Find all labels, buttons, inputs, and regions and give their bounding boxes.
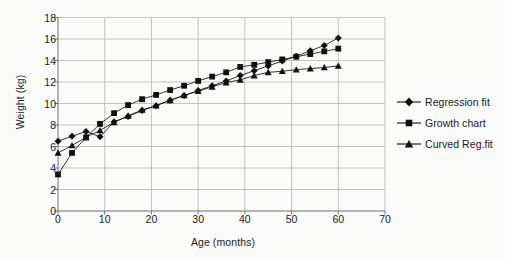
y-tick-label: 6 — [30, 142, 56, 153]
x-axis-tick-labels: 010203040506070 — [0, 214, 505, 234]
y-axis-title: Weight (kg) — [14, 52, 26, 152]
triangle-marker-icon — [396, 137, 422, 151]
legend-item-regression-fit: Regression fit — [396, 91, 504, 112]
y-tick-label: 8 — [30, 120, 56, 131]
x-axis-title: Age (months) — [60, 236, 386, 248]
legend-label-regression-fit: Regression fit — [422, 96, 490, 108]
x-tick-label: 40 — [228, 214, 262, 225]
legend-item-growth-chart: Growth chart — [396, 112, 504, 133]
x-tick-label: 50 — [275, 214, 309, 225]
y-tick-label: 18 — [30, 13, 56, 24]
x-tick-label: 60 — [321, 214, 355, 225]
y-tick-label: 16 — [30, 34, 56, 45]
diamond-marker-icon — [396, 95, 422, 109]
x-tick-label: 20 — [134, 214, 168, 225]
y-tick-label: 2 — [30, 185, 56, 196]
legend-label-curved-reg-fit: Curved Reg.fit — [422, 138, 493, 150]
chart-figure: 024681012141618 010203040506070 Weight (… — [0, 0, 505, 262]
x-tick-label: 30 — [181, 214, 215, 225]
y-tick-label: 4 — [30, 163, 56, 174]
y-tick-label: 10 — [30, 99, 56, 110]
y-tick-label: 14 — [30, 56, 56, 67]
y-tick-label: 12 — [30, 77, 56, 88]
legend-item-curved-reg-fit: Curved Reg.fit — [396, 133, 504, 154]
square-marker-icon — [396, 116, 422, 130]
x-tick-label: 0 — [41, 214, 75, 225]
x-tick-label: 10 — [88, 214, 122, 225]
x-tick-label: 70 — [368, 214, 402, 225]
legend-label-growth-chart: Growth chart — [422, 117, 486, 129]
chart-legend: Regression fit Growth chart Curved Reg.f… — [396, 91, 504, 154]
